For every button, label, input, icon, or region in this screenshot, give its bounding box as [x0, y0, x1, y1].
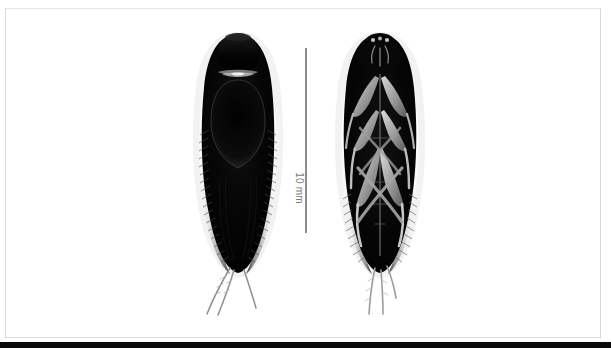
- ventral-head-spot-mid: [378, 37, 382, 41]
- dorsal-clypeus: [225, 33, 251, 41]
- scale-bar-label: 10 mm: [292, 118, 306, 174]
- specimen-plate: 10 mm: [0, 0, 611, 348]
- ventral-head-spot-left: [371, 38, 375, 42]
- specimen-ventral: [320, 18, 440, 318]
- scale-bar-label-text: 10 mm: [292, 160, 306, 216]
- dorsal-pronotum-spot: [232, 72, 244, 75]
- ventral-head-spot-right: [385, 38, 389, 42]
- specimen-ventral-drawing: [320, 18, 440, 318]
- specimen-dorsal: [178, 18, 298, 318]
- ventral-appendage-setae: [365, 278, 388, 301]
- bottom-black-bar: [0, 342, 611, 348]
- specimen-dorsal-drawing: [178, 18, 298, 318]
